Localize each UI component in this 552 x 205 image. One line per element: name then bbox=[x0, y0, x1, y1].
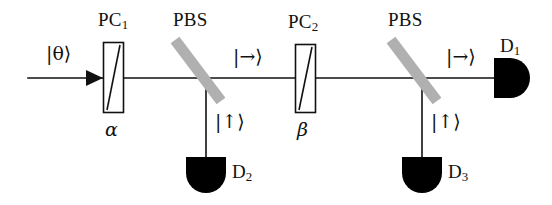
detector-3-label-subscript: 3 bbox=[462, 169, 468, 184]
beam-splitter-2-label: PBS bbox=[388, 10, 422, 29]
detector-3-label: D3 bbox=[448, 162, 468, 184]
detector-3-label-text: D bbox=[448, 161, 462, 182]
pbs-2-bar bbox=[391, 40, 437, 101]
pbs-1-bar bbox=[175, 40, 221, 101]
pockels-cell-2-setting-label: β bbox=[297, 120, 308, 139]
beam-splitter-1-label: PBS bbox=[173, 10, 207, 29]
detector-3-body bbox=[402, 157, 442, 193]
detector-2 bbox=[186, 157, 226, 193]
pockels-cell-2-label-text: PC bbox=[288, 11, 312, 32]
pockels-cell-1-label-text: PC bbox=[98, 9, 122, 30]
pockels-cell-1 bbox=[104, 43, 124, 113]
pockels-cell-2 bbox=[296, 45, 316, 113]
beam-splitter-1 bbox=[175, 40, 221, 101]
detector-1-label-text: D bbox=[500, 35, 514, 56]
detector-1-label-subscript: 1 bbox=[514, 43, 520, 58]
detector-1 bbox=[494, 58, 530, 98]
input-beam-arrowhead bbox=[86, 70, 103, 86]
detector-2-body bbox=[186, 157, 226, 193]
detector-1-body bbox=[494, 58, 530, 98]
reflected-state-ket-2: |↑⟩ bbox=[431, 112, 461, 131]
detector-2-label: D2 bbox=[232, 162, 252, 184]
detector-2-label-text: D bbox=[232, 161, 246, 182]
pockels-cell-1-label-subscript: 1 bbox=[122, 17, 129, 32]
pockels-cell-1-label: PC1 bbox=[98, 10, 128, 32]
reflected-state-ket-1: |↑⟩ bbox=[215, 112, 245, 131]
detector-3 bbox=[402, 157, 442, 193]
pockels-cell-1-setting-label: α bbox=[105, 120, 118, 139]
pockels-cell-2-label: PC2 bbox=[288, 12, 318, 34]
beam-splitter-2 bbox=[391, 40, 437, 101]
diagram-canvas bbox=[0, 0, 552, 205]
input-state-ket: |θ⟩ bbox=[46, 44, 71, 63]
detector-1-label: D1 bbox=[500, 36, 520, 58]
transmitted-state-ket-1: |→⟩ bbox=[233, 47, 263, 66]
detector-2-label-subscript: 2 bbox=[246, 169, 252, 184]
transmitted-state-ket-2: |→⟩ bbox=[446, 47, 476, 66]
pockels-cell-2-label-subscript: 2 bbox=[312, 19, 319, 34]
optical-setup-figure: PC1 PBS PC2 PBS |θ⟩ |→⟩ |→⟩ |↑⟩ |↑⟩ α β … bbox=[0, 0, 552, 205]
